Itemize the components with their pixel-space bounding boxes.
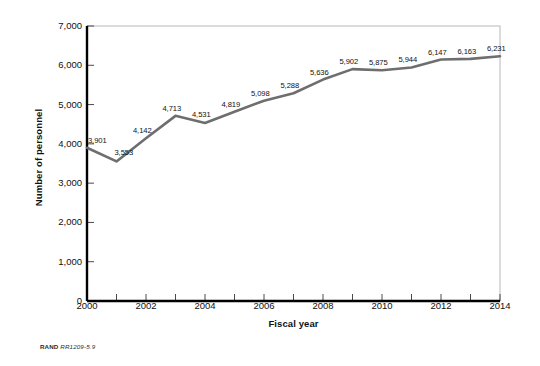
x-axis-tick-labels: 20002002200420062008201020122014 <box>0 300 540 320</box>
x-tick-label: 2012 <box>430 300 451 311</box>
data-point-label: 5,288 <box>281 81 300 90</box>
figure-credit: RAND RR1209-5.9 <box>40 343 95 350</box>
data-point-label: 6,231 <box>487 44 506 53</box>
data-point-label: 6,163 <box>458 47 477 56</box>
figure-container: Number of personnel 01,0002,0003,0004,00… <box>0 0 540 366</box>
x-tick-label: 2000 <box>76 300 97 311</box>
x-tick-label: 2014 <box>489 300 510 311</box>
data-point-label: 5,944 <box>399 55 418 64</box>
data-point-label: 4,142 <box>133 126 152 135</box>
data-point-label: 5,902 <box>340 57 359 66</box>
data-point-label: 3,553 <box>115 148 134 157</box>
x-tick-label: 2010 <box>371 300 392 311</box>
x-axis-title: Fiscal year <box>87 318 500 329</box>
x-tick-label: 2002 <box>135 300 156 311</box>
x-tick-label: 2008 <box>312 300 333 311</box>
data-point-label: 6,147 <box>428 48 447 57</box>
data-point-label: 3,901 <box>88 136 107 145</box>
rand-wordmark: RAND <box>40 343 58 350</box>
x-tick-label: 2004 <box>194 300 215 311</box>
data-point-label: 5,636 <box>310 68 329 77</box>
data-point-label: 5,098 <box>251 89 270 98</box>
x-tick-label: 2006 <box>253 300 274 311</box>
figure-number: RR1209-5.9 <box>60 343 95 350</box>
data-point-label: 4,819 <box>222 100 241 109</box>
data-point-label: 4,531 <box>192 110 211 119</box>
data-point-label: 5,875 <box>369 58 388 67</box>
data-point-label: 4,713 <box>163 104 182 113</box>
